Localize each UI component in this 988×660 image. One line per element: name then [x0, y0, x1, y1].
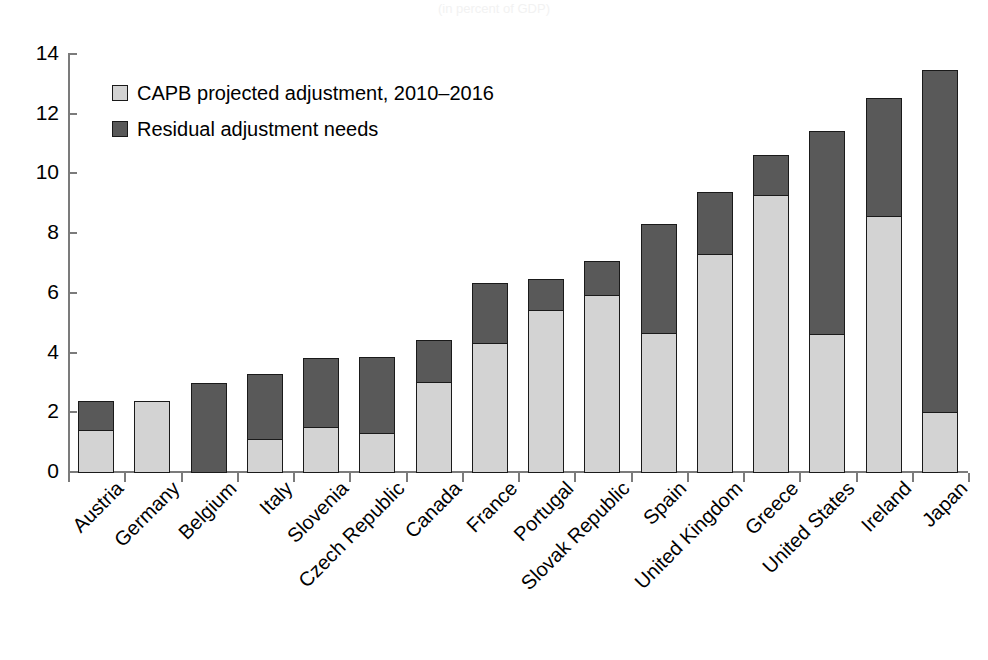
bar-segment-capb [247, 439, 283, 473]
legend-item-capb: CAPB projected adjustment, 2010–2016 [112, 78, 592, 108]
bar-segment-capb [78, 430, 114, 473]
bar-stack [303, 358, 339, 473]
bar-group[interactable] [809, 55, 845, 473]
bar-segment-residual [528, 279, 564, 310]
bar-segment-capb [866, 216, 902, 473]
bar-segment-capb [472, 343, 508, 473]
x-axis-label: Czech Republic [294, 477, 409, 592]
x-axis-label: Belgium [174, 477, 241, 544]
bar-segment-residual [697, 192, 733, 253]
bar-stack [247, 374, 283, 473]
y-axis-tick-label: 14 [0, 42, 59, 63]
bar-segment-residual [922, 70, 958, 412]
bar-stack [753, 155, 789, 473]
y-axis-tick-label: 2 [0, 400, 59, 421]
x-axis-label: Japan [917, 477, 971, 531]
x-axis-label: Canada [400, 477, 465, 542]
y-axis-tick-label: 4 [0, 341, 59, 362]
bar-group[interactable] [78, 55, 114, 473]
bar-stack [866, 98, 902, 473]
y-axis-tick-label: 12 [0, 102, 59, 123]
bar-stack [134, 401, 170, 473]
bar-segment-residual [247, 374, 283, 438]
legend-label-residual: Residual adjustment needs [137, 118, 378, 140]
legend-swatch-dark-icon [112, 121, 128, 137]
bar-segment-residual [78, 401, 114, 429]
bar-stack [472, 283, 508, 473]
y-axis-tick-label: 10 [0, 161, 59, 182]
bar-segment-residual [191, 383, 227, 473]
chart-figure: (in percent of GDP) 02468101214 AustriaG… [0, 0, 988, 660]
x-axis-label: Italy [255, 477, 296, 518]
x-axis-label: Spain [638, 477, 690, 529]
bar-stack [584, 261, 620, 473]
bar-segment-capb [359, 433, 395, 473]
y-axis-tick-label: 0 [0, 460, 59, 481]
bar-group[interactable] [753, 55, 789, 473]
bar-group[interactable] [866, 55, 902, 473]
bar-segment-residual [753, 155, 789, 195]
bar-group[interactable] [697, 55, 733, 473]
bar-stack [78, 401, 114, 473]
bar-segment-capb [641, 333, 677, 473]
bar-segment-residual [809, 131, 845, 334]
bar-segment-residual [472, 283, 508, 343]
bar-segment-residual [584, 261, 620, 295]
bar-segment-capb [528, 310, 564, 473]
bar-stack [416, 340, 452, 473]
bar-segment-capb [303, 427, 339, 473]
x-axis-label: Ireland [856, 477, 915, 536]
bar-segment-capb [134, 401, 170, 473]
bar-stack [697, 192, 733, 473]
bar-segment-capb [753, 195, 789, 473]
x-axis-labels: AustriaGermanyBelgiumItalySloveniaCzech … [68, 477, 988, 657]
bar-stack [191, 383, 227, 473]
bar-segment-residual [359, 357, 395, 433]
bar-segment-capb [697, 254, 733, 473]
bar-group[interactable] [641, 55, 677, 473]
bar-group[interactable] [922, 55, 958, 473]
y-axis-tick-label: 8 [0, 221, 59, 242]
bar-stack [528, 279, 564, 473]
bar-stack [359, 357, 395, 473]
y-axis-tick-label: 6 [0, 281, 59, 302]
bar-stack [809, 131, 845, 473]
bar-stack [641, 224, 677, 473]
bar-segment-capb [584, 295, 620, 473]
legend-item-residual: Residual adjustment needs [112, 114, 592, 144]
bar-stack [922, 70, 958, 473]
chart-legend: CAPB projected adjustment, 2010–2016 Res… [112, 78, 592, 150]
legend-swatch-light-icon [112, 85, 128, 101]
legend-label-capb: CAPB projected adjustment, 2010–2016 [137, 82, 494, 104]
bar-segment-residual [641, 224, 677, 333]
bar-segment-capb [809, 334, 845, 473]
chart-title-remnant: (in percent of GDP) [0, 0, 988, 18]
bar-segment-residual [303, 358, 339, 427]
bar-segment-capb [416, 382, 452, 473]
bar-segment-capb [922, 412, 958, 473]
bar-segment-residual [416, 340, 452, 382]
bar-segment-residual [866, 98, 902, 216]
